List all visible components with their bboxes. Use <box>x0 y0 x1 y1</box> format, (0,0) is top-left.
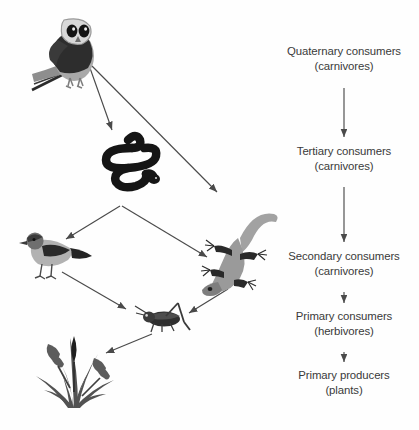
level-label-quaternary-sub: (carnivores) <box>278 59 410 74</box>
bird-illustration <box>18 222 94 284</box>
grasshopper-illustration <box>134 300 196 334</box>
level-label-primary-producers-title: Primary producers <box>298 369 389 381</box>
level-label-primary-producers: Primary producers (plants) <box>278 368 410 397</box>
level-label-primary-consumers-title: Primary consumers <box>296 310 392 322</box>
owl-illustration <box>24 12 110 100</box>
snake-illustration <box>98 128 176 194</box>
lizard-illustration <box>196 204 280 300</box>
level-label-secondary-title: Secondary consumers <box>288 250 399 262</box>
food-chain-diagram: Quaternary consumers (carnivores) Tertia… <box>0 0 419 430</box>
level-label-quaternary: Quaternary consumers (carnivores) <box>278 44 410 73</box>
level-label-secondary: Secondary consumers (carnivores) <box>278 249 410 278</box>
level-label-tertiary-title: Tertiary consumers <box>297 145 391 157</box>
level-label-primary-consumers: Primary consumers (herbivores) <box>278 309 410 338</box>
level-label-secondary-sub: (carnivores) <box>278 264 410 279</box>
level-label-tertiary-sub: (carnivores) <box>278 159 410 174</box>
level-label-tertiary: Tertiary consumers (carnivores) <box>278 144 410 173</box>
level-label-primary-consumers-sub: (herbivores) <box>278 324 410 339</box>
level-label-quaternary-title: Quaternary consumers <box>287 45 401 57</box>
grass-illustration <box>22 322 128 410</box>
level-label-primary-producers-sub: (plants) <box>278 383 410 398</box>
